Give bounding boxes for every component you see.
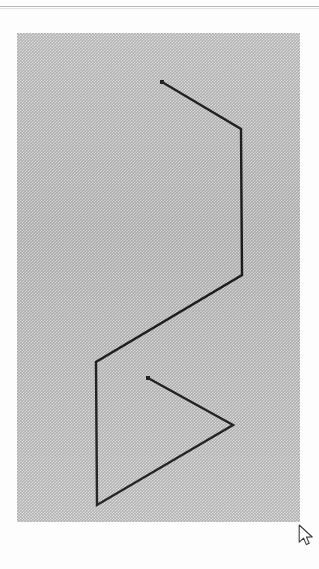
mouse-cursor xyxy=(298,524,316,548)
polyline-drawing xyxy=(17,33,300,522)
page-canvas: polyline xyxy=(0,0,319,569)
arrow-pointer-icon xyxy=(299,525,312,545)
polyline-start-marker xyxy=(160,80,164,84)
figure-panel xyxy=(17,33,300,522)
page-top-rule-shadow xyxy=(0,8,319,9)
page-top-rule xyxy=(0,6,319,7)
polyline-path xyxy=(96,82,242,505)
figure-caption: polyline xyxy=(0,0,1,1)
polyline-end-marker xyxy=(146,376,150,380)
